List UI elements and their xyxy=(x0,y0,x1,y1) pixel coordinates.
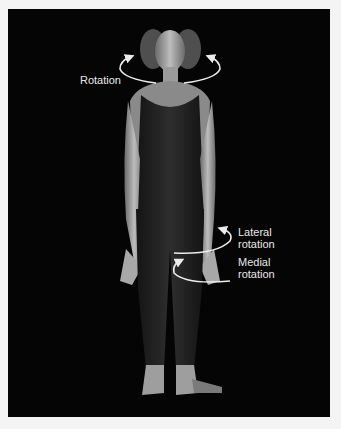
person-figure xyxy=(8,9,330,417)
rotation-label: Rotation xyxy=(80,74,121,86)
lateral-rotation-label-line1: Lateral xyxy=(238,226,272,238)
anatomy-photo: Rotation Lateral rotation Medial rotatio… xyxy=(8,9,330,417)
medial-rotation-label-line1: Medial xyxy=(238,256,270,268)
head xyxy=(155,30,185,72)
lateral-rotation-label-line2: rotation xyxy=(238,238,275,250)
medial-rotation-label-line2: rotation xyxy=(238,268,275,280)
